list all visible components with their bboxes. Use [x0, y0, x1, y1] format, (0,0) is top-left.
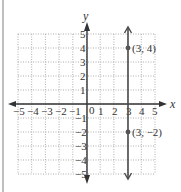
y-tick: 2 [80, 70, 86, 82]
x-tick: −2 [55, 105, 67, 117]
x-axis-label: x [169, 97, 176, 111]
x-tick: 2 [112, 105, 118, 117]
y-tick: −4 [75, 154, 87, 166]
y-tick: 3 [80, 56, 86, 68]
y-tick: −1 [75, 112, 87, 124]
y-axis-label: y [82, 9, 89, 23]
y-tick: −2 [75, 126, 87, 138]
y-tick: 4 [80, 42, 86, 54]
point-3-neg2: (3, −2) [126, 126, 163, 139]
point-label: (3, 4) [132, 42, 156, 55]
x-tick: −5 [13, 105, 25, 117]
y-tick: 1 [80, 84, 86, 96]
y-tick: −5 [75, 168, 87, 180]
x-tick: −4 [27, 105, 39, 117]
x-tick: 1 [98, 105, 104, 117]
y-tick: −3 [75, 140, 87, 152]
y-tick: 5 [80, 28, 86, 40]
point-3-4: (3, 4) [126, 42, 157, 55]
x-axis-arrow-right-icon [159, 101, 167, 107]
x-tick: −3 [41, 105, 53, 117]
origin-label: 0 [89, 104, 95, 116]
x-tick: 4 [139, 105, 145, 117]
point-label: (3, −2) [132, 126, 162, 139]
x-tick: 5 [152, 105, 158, 117]
coordinate-plane: x y −5 −4 −3 −2 −1 0 1 2 3 4 5 5 4 3 2 1… [0, 0, 181, 192]
x-tick: 3 [126, 105, 132, 117]
